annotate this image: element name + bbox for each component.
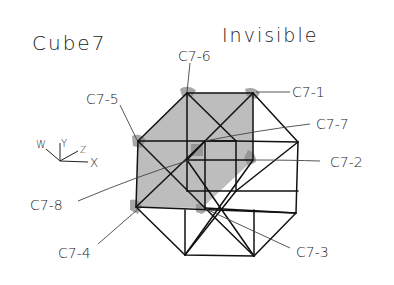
vertex-label-c7-7: C7-7 [316, 116, 349, 132]
vertex-label-c7-2: C7-2 [330, 154, 363, 170]
tesseract-diagram: Cube7 Invisible [0, 0, 394, 285]
vertex-label-c7-4: C7-4 [58, 245, 91, 261]
axis-label-x: X [90, 156, 98, 170]
vertex-label-c7-8: C7-8 [30, 197, 63, 213]
vertex-label-c7-5: C7-5 [86, 91, 119, 107]
axis-label-z: Z [80, 145, 86, 155]
vertex-label-c7-1: C7-1 [292, 84, 325, 100]
axis-label-y: Y [61, 138, 67, 149]
axis-label-w: W [36, 139, 46, 150]
axis-indicator: W Y Z X [36, 138, 98, 170]
vertex-label-c7-6: C7-6 [178, 48, 211, 64]
diagram-subtitle: Invisible [222, 24, 318, 46]
vertex-label-c7-3: C7-3 [296, 244, 329, 260]
diagram-title: Cube7 [32, 31, 106, 55]
